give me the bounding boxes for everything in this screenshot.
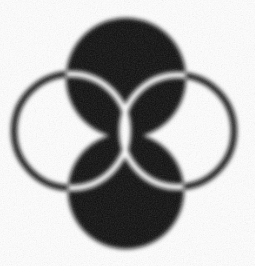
scan-grain-overlay <box>0 0 255 266</box>
quatrefoil-mark <box>0 0 255 266</box>
artboard: Quatrefoil Four-Circle Mark Four overlap… <box>0 0 255 266</box>
